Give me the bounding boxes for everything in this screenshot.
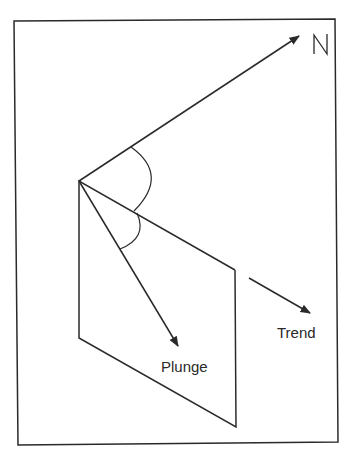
north-label: N xyxy=(314,34,327,54)
trend-arrow xyxy=(249,278,310,313)
diagram-frame xyxy=(14,19,338,445)
trend-label: Trend xyxy=(277,324,316,341)
diagram-canvas: N Plunge Trend xyxy=(0,0,348,459)
trend-angle-arc xyxy=(131,147,151,211)
north-arrow xyxy=(79,36,299,181)
plunge-arrow xyxy=(79,181,178,346)
plunge-label: Plunge xyxy=(161,358,208,375)
plunge-angle-arc xyxy=(120,213,140,249)
inclined-plane xyxy=(79,181,236,427)
